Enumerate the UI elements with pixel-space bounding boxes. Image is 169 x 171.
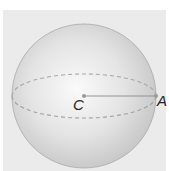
label-point-a: A <box>156 92 167 109</box>
label-center: C <box>73 96 84 113</box>
sphere-diagram: C A <box>0 0 169 171</box>
